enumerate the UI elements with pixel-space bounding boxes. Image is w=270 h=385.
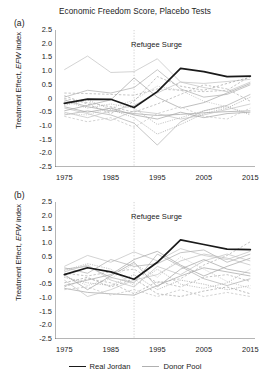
panel-b-x-ticks: 19751985199520052015 <box>0 346 270 358</box>
panel-b-y-ticks: 2.52.01.51.00.50-0.5-1.0-1.5-2.0-2.5 <box>26 190 52 336</box>
y-tick-label: 2.0 <box>26 40 52 48</box>
y-tick-label: -1.5 <box>26 136 52 144</box>
line-swatch-icon <box>69 366 86 367</box>
x-tick-label: 2015 <box>235 174 265 182</box>
y-tick-label: -2.5 <box>26 335 52 343</box>
x-tick-label: 2005 <box>189 174 219 182</box>
x-tick-label: 2005 <box>189 346 219 354</box>
panel-a: (a) Treatment Effect, EFW index 2.52.01.… <box>0 18 270 188</box>
panel-b-y-axis-label: Treatment Effect, EFW index <box>14 188 23 318</box>
donor-pool-line <box>64 275 250 290</box>
donor-pool-line <box>64 101 250 124</box>
line-swatch-icon <box>142 366 159 367</box>
x-tick-label: 1975 <box>49 346 79 354</box>
y-tick-label: 0.5 <box>26 81 52 89</box>
legend-item-donor-pool: Donor Pool <box>142 362 201 371</box>
legend-label-real-jordan: Real Jordan <box>90 362 131 371</box>
y-tick-label: 0 <box>26 267 52 275</box>
x-tick-label: 2015 <box>235 346 265 354</box>
figure-legend: Real Jordan Donor Pool <box>0 362 270 371</box>
panel-a-x-ticks: 19751985199520052015 <box>0 174 270 186</box>
y-tick-label: -0.5 <box>26 280 52 288</box>
donor-pool-line <box>64 107 250 119</box>
x-tick-label: 1995 <box>142 174 172 182</box>
y-tick-label: 2.5 <box>26 198 52 206</box>
donor-pool-line <box>64 107 250 128</box>
y-tick-label: -2.0 <box>26 149 52 157</box>
x-tick-label: 1985 <box>96 174 126 182</box>
panel-b-lines <box>55 202 255 339</box>
x-tick-label: 1975 <box>49 174 79 182</box>
figure-title: Economic Freedom Score, Placebo Tests <box>0 7 270 16</box>
donor-pool-line <box>64 100 250 116</box>
panel-a-plot-area <box>55 30 255 167</box>
legend-item-real-jordan: Real Jordan <box>69 362 131 371</box>
y-tick-label: 1.0 <box>26 239 52 247</box>
figure-root: Economic Freedom Score, Placebo Tests (a… <box>0 0 270 385</box>
y-tick-label: -1.5 <box>26 308 52 316</box>
y-tick-label: 2.0 <box>26 212 52 220</box>
panel-a-y-axis-label: Treatment Effect, EFW index <box>14 16 23 146</box>
y-tick-label: -0.5 <box>26 108 52 116</box>
y-tick-label: 1.0 <box>26 67 52 75</box>
donor-pool-line <box>64 268 250 295</box>
y-tick-label: -2.5 <box>26 163 52 171</box>
y-tick-label: 1.5 <box>26 53 52 61</box>
y-tick-label: 1.5 <box>26 225 52 233</box>
panel-a-lines <box>55 30 255 167</box>
y-tick-label: -1.0 <box>26 294 52 302</box>
y-tick-label: -1.0 <box>26 122 52 130</box>
legend-label-donor-pool: Donor Pool <box>163 362 201 371</box>
x-tick-label: 1995 <box>142 346 172 354</box>
x-tick-label: 1985 <box>96 346 126 354</box>
y-tick-label: 0 <box>26 95 52 103</box>
panel-b-plot-area <box>55 202 255 339</box>
y-tick-label: 0.5 <box>26 253 52 261</box>
panel-b-annotation: Refugee Surge <box>131 212 182 221</box>
y-tick-label: 2.5 <box>26 26 52 34</box>
panel-a-y-ticks: 2.52.01.51.00.50-0.5-1.0-1.5-2.0-2.5 <box>26 18 52 164</box>
y-tick-label: -2.0 <box>26 321 52 329</box>
panel-b: (b) Treatment Effect, EFW index 2.52.01.… <box>0 190 270 362</box>
panel-a-annotation: Refugee Surge <box>131 40 182 49</box>
